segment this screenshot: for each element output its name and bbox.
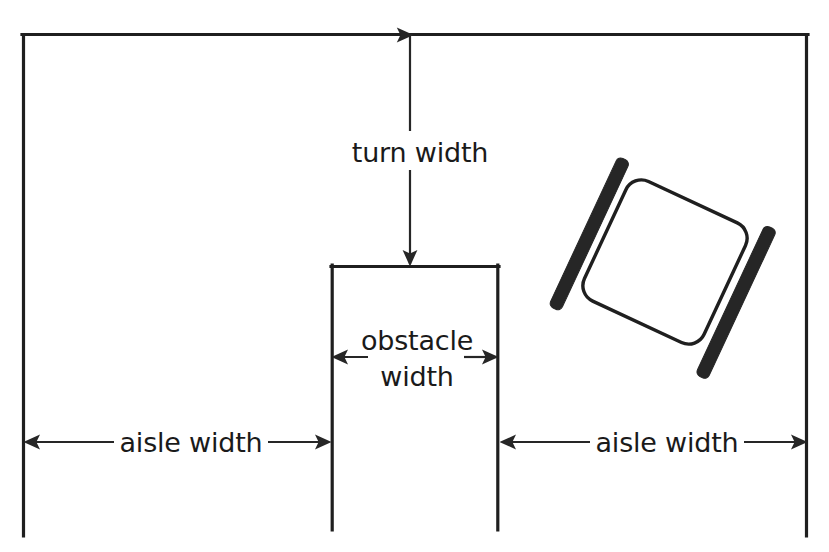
obstacle-width-dimension: obstacle width (334, 325, 496, 392)
aisle-width-right-dimension: aisle width (502, 427, 805, 458)
diagram-canvas: turn width obstacle width aisle width ai… (0, 0, 829, 552)
cart-assembly (549, 156, 777, 379)
turn-width-dimension: turn width (352, 35, 488, 264)
aisle-width-left-label: aisle width (119, 427, 262, 458)
obstacle-shape (331, 265, 499, 530)
obstacle-width-label-line1: obstacle (361, 325, 473, 356)
aisle-turn-width-diagram: turn width obstacle width aisle width ai… (0, 0, 829, 552)
aisle-width-left-dimension: aisle width (26, 427, 329, 458)
turn-width-label: turn width (352, 137, 488, 168)
aisle-width-right-label: aisle width (595, 427, 738, 458)
obstacle-width-label-line2: width (380, 361, 453, 392)
